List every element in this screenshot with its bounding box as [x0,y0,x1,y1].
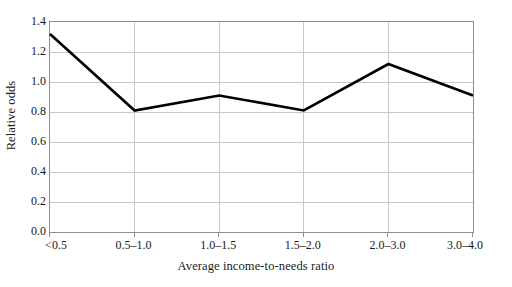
x-axis-tick-label: 2.0–3.0 [369,238,405,252]
x-axis-tick-mark [387,232,388,237]
x-axis-tick-label: 3.0–4.0 [447,238,483,252]
x-axis-tick-mark [472,232,473,237]
x-axis-tick-label: 1.5–2.0 [285,238,321,252]
x-axis-tick-label: <0.5 [45,238,67,252]
x-axis-tick-mark [134,232,135,237]
y-axis-tick-label: 1.2 [22,45,46,57]
y-axis-title: Relative odds [0,0,22,231]
y-axis-tick-label: 0.8 [22,105,46,117]
x-axis-title: Average income-to-needs ratio [0,258,512,274]
data-series-line [50,22,473,232]
chart-figure: Relative odds 0.00.20.40.60.81.01.21.4 <… [0,0,512,287]
x-axis-tick-label: 1.0–1.5 [200,238,236,252]
plot-area [49,21,474,233]
x-axis-tick-mark [218,232,219,237]
y-axis-tick-label: 1.4 [22,15,46,27]
x-axis-tick-labels: <0.50.5–1.01.0–1.51.5–2.02.0–3.03.0–4.0 [0,238,512,256]
y-axis-tick-label: 0.4 [22,165,46,177]
x-axis-tick-mark [49,232,50,237]
y-axis-tick-label: 0.0 [22,225,46,237]
x-axis-tick-marks [49,232,472,237]
y-axis-tick-label: 0.2 [22,195,46,207]
y-axis-tick-label: 0.6 [22,135,46,147]
x-axis-tick-label: 0.5–1.0 [116,238,152,252]
y-axis-title-label: Relative odds [4,81,19,151]
y-axis-tick-label: 1.0 [22,75,46,87]
x-axis-tick-mark [303,232,304,237]
